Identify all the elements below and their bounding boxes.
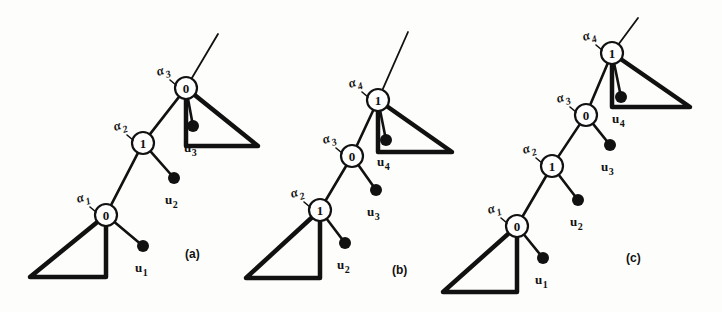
- edge-node-c-upmid-to-node-c-lomid: [558, 124, 580, 157]
- node-b-bottom-value: 1: [317, 203, 324, 218]
- node-a-mid-alpha-label: α2: [111, 116, 129, 138]
- leaf-c-u3-label-sub: 3: [609, 166, 614, 177]
- node-b-mid-alpha-sub: 3: [329, 136, 338, 148]
- leaf-a-u2-label-sub: 2: [173, 199, 178, 210]
- node-b-top-alpha-tick: [362, 92, 368, 97]
- node-c-bottom-alpha-tick: [501, 218, 507, 223]
- leaf-c-u4[interactable]: [615, 91, 627, 103]
- node-a-mid-alpha-tick: [127, 135, 133, 140]
- node-c-lomid-alpha-label: α2: [520, 139, 538, 161]
- node-c-lomid-value: 1: [549, 159, 556, 174]
- node-c-upmid-alpha-sub: 3: [563, 95, 572, 107]
- triangle-a-bottom: [30, 215, 106, 277]
- node-c-lomid-alpha-sub: 2: [529, 146, 538, 158]
- triangle-b-bottom: [246, 210, 320, 278]
- leaf-a-u2-label: u2: [165, 192, 178, 210]
- edge-node-a-mid-to-node-a-bottom: [111, 153, 138, 205]
- leaf-c-u2-label: u2: [570, 214, 583, 232]
- node-b-bottom-alpha-label: α2: [288, 183, 306, 205]
- leaf-b-u3[interactable]: [370, 184, 382, 196]
- node-c-bottom-alpha-sub: 1: [495, 206, 503, 218]
- node-b-top-alpha-label: α4: [346, 73, 364, 95]
- stem-b: [382, 32, 408, 90]
- triangle-a-top: [186, 88, 258, 146]
- leaf-c-u4-label-sub: 4: [620, 118, 625, 129]
- node-a-top-alpha-sub: 3: [163, 68, 172, 80]
- panel-b: u4u3u21α40α31α2(b): [246, 32, 452, 278]
- leaf-c-u3-label: u3: [601, 159, 614, 177]
- leaf-c-u1-label-sub: 1: [543, 279, 548, 290]
- node-c-top-alpha-sub: 4: [589, 33, 598, 45]
- leaf-c-u1[interactable]: [537, 252, 549, 264]
- leaf-a-u3[interactable]: [187, 120, 199, 132]
- node-b-bottom-alpha-tick: [304, 202, 310, 207]
- leaf-c-u2[interactable]: [572, 194, 584, 206]
- node-a-bottom-alpha-label: α1: [74, 188, 92, 210]
- leaf-a-u3-label: u3: [184, 140, 197, 158]
- node-c-top-alpha-tick: [596, 45, 602, 50]
- node-a-bottom-alpha-tick: [90, 207, 96, 212]
- node-a-bottom-value: 0: [103, 208, 110, 223]
- panel-a: u3u2u10α31α20α1(a): [30, 34, 258, 278]
- node-c-bottom-value: 0: [514, 219, 521, 234]
- panel-c: u4u3u2u11α40α31α20α1(c): [443, 18, 690, 292]
- leaf-c-u1-label: u1: [535, 272, 548, 290]
- node-b-mid-alpha-tick: [336, 148, 342, 153]
- node-c-upmid-alpha-tick: [570, 107, 576, 112]
- caption-a: (a): [185, 247, 200, 261]
- edge-node-b-top-to-node-b-mid: [357, 110, 374, 146]
- stem-c: [619, 18, 638, 44]
- edge-node-c-lomid-to-node-c-bottom: [523, 176, 547, 217]
- node-c-top-alpha-label: α4: [580, 26, 598, 48]
- triangle-c-bottom: [443, 226, 517, 292]
- edge-node-b-mid-to-node-b-bottom: [326, 165, 347, 200]
- node-a-mid-alpha-sub: 2: [120, 123, 129, 135]
- node-a-top-alpha-tick: [170, 80, 176, 85]
- caption-c: (c): [626, 251, 641, 265]
- leaf-b-u3-label: u3: [367, 204, 380, 222]
- stem-a: [192, 34, 218, 79]
- node-a-top-value: 0: [183, 81, 190, 96]
- node-b-mid-alpha-label: α3: [320, 129, 338, 151]
- node-c-lomid-alpha-tick: [536, 158, 542, 163]
- leaf-a-u2[interactable]: [168, 172, 180, 184]
- edge-node-a-top-to-node-a-mid: [150, 97, 179, 135]
- tree-diagram-svg: u3u2u10α31α20α1(a)u4u3u21α40α31α2(b)u4u3…: [0, 0, 722, 312]
- node-c-upmid-value: 0: [583, 108, 590, 123]
- leaf-a-u3-label-sub: 3: [192, 147, 197, 158]
- leaf-a-u1-label: u1: [135, 260, 148, 278]
- edge-node-c-top-to-node-c-upmid: [590, 63, 607, 105]
- leaf-b-u4-label: u4: [377, 154, 390, 172]
- leaf-c-u4-label: u4: [612, 111, 625, 129]
- node-b-mid-value: 0: [349, 149, 356, 164]
- leaf-a-u1-label-sub: 1: [143, 267, 148, 278]
- node-b-top-value: 1: [375, 93, 382, 108]
- node-c-top-value: 1: [609, 46, 616, 61]
- node-a-mid-value: 1: [140, 136, 147, 151]
- caption-b: (b): [392, 263, 407, 277]
- node-c-bottom-alpha-label: α1: [485, 199, 503, 221]
- node-c-upmid-alpha-label: α3: [554, 88, 572, 110]
- node-b-top-alpha-sub: 4: [355, 80, 364, 92]
- leaf-b-u2[interactable]: [339, 237, 351, 249]
- figure-container: u3u2u10α31α20α1(a)u4u3u21α40α31α2(b)u4u3…: [0, 0, 722, 312]
- node-a-top-alpha-label: α3: [154, 61, 172, 83]
- leaf-a-u1[interactable]: [137, 240, 149, 252]
- leaf-b-u4[interactable]: [380, 134, 392, 146]
- node-b-bottom-alpha-sub: 2: [297, 190, 306, 202]
- leaf-b-u3-label-sub: 3: [375, 211, 380, 222]
- leaf-c-u2-label-sub: 2: [578, 221, 583, 232]
- node-a-bottom-alpha-sub: 1: [84, 195, 92, 207]
- leaf-b-u2-label: u2: [337, 257, 350, 275]
- leaf-b-u2-label-sub: 2: [345, 264, 350, 275]
- leaf-b-u4-label-sub: 4: [385, 161, 390, 172]
- leaf-c-u3[interactable]: [604, 139, 616, 151]
